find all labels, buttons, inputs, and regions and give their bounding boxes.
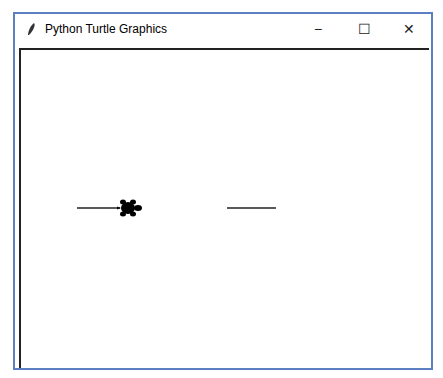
turtle-icon (117, 200, 142, 217)
drawing-layer (0, 0, 443, 378)
